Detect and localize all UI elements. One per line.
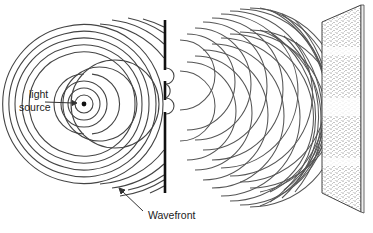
detection-screen: [322, 5, 364, 213]
double-slit-diagram: light source Wavefront: [0, 0, 373, 233]
diffracted-wavefronts: [180, 8, 340, 207]
light-source-label-line2: source: [19, 101, 51, 113]
light-source-label-line1: light: [29, 88, 48, 100]
wavefront-label: Wavefront: [148, 209, 195, 221]
slit-diffraction: [166, 68, 174, 114]
light-source-dot: [82, 102, 87, 107]
